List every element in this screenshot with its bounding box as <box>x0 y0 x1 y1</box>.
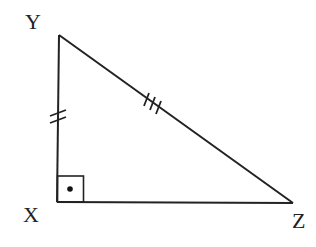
vertex-label-x: X <box>23 202 39 227</box>
tick-marks-yz <box>144 93 161 114</box>
side-yz <box>59 35 293 203</box>
triangle-diagram: Y X Z <box>0 0 316 247</box>
side-xz <box>57 202 293 203</box>
vertex-label-y: Y <box>25 9 41 34</box>
vertex-label-z: Z <box>292 208 305 233</box>
right-angle-dot <box>67 186 73 192</box>
